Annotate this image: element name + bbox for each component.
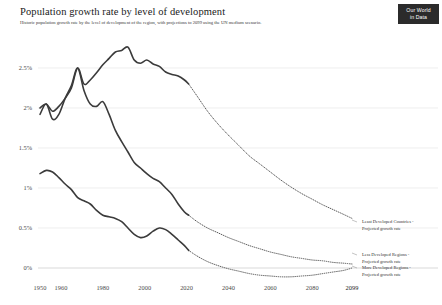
annotation-more-developed-regions: More Developed Regions -Projected growth… (362, 265, 442, 279)
x-tick-label: 2060 (254, 284, 286, 291)
y-tick-label: 1% (6, 184, 32, 191)
y-tick-label: 1.5% (6, 144, 32, 151)
series-2 (40, 170, 352, 277)
x-tick-label: 2040 (212, 284, 244, 291)
annotation-less-developed-regions: Less Developed Regions -Projected growth… (362, 252, 442, 266)
y-tick-label: 0% (6, 264, 32, 271)
series-1 (40, 68, 352, 264)
x-tick-label: 2080 (296, 284, 328, 291)
x-tick-label: 1960 (45, 284, 77, 291)
annotation-least-developed-countries: Least Developed Countries -Projected gro… (362, 219, 442, 233)
x-tick-label: 1980 (87, 284, 119, 291)
x-tick-label: 2020 (171, 284, 203, 291)
series-0 (40, 47, 352, 219)
y-tick-label: 0.5% (6, 224, 32, 231)
x-tick-label: 2099 (336, 284, 368, 291)
y-tick-label: 2.5% (6, 64, 32, 71)
y-tick-label: 2% (6, 104, 32, 111)
chart-page: Population growth rate by level of devel… (0, 0, 442, 305)
x-tick-label: 2000 (129, 284, 161, 291)
